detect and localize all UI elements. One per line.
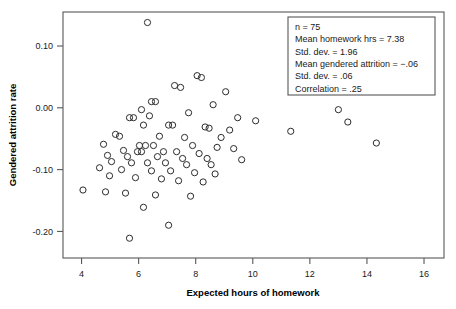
x-tick-label: 4 bbox=[79, 269, 84, 279]
stats-line: Std. dev. = .06 bbox=[295, 71, 353, 81]
x-tick-label: 10 bbox=[248, 269, 258, 279]
stats-line: Correlation = .25 bbox=[295, 84, 362, 94]
stats-line: Mean homework hrs = 7.38 bbox=[295, 34, 404, 44]
x-tick-label: 12 bbox=[305, 269, 315, 279]
x-axis-title: Expected hours of homework bbox=[186, 287, 320, 298]
y-tick-label: 0.00 bbox=[35, 103, 53, 113]
y-tick-label: -0.10 bbox=[32, 165, 53, 175]
y-tick-label: -0.20 bbox=[32, 227, 53, 237]
y-tick-label: 0.10 bbox=[35, 41, 53, 51]
x-tick-label: 8 bbox=[193, 269, 198, 279]
stats-line: Mean gendered attrition = −.06 bbox=[295, 59, 418, 69]
x-tick-label: 6 bbox=[136, 269, 141, 279]
stats-line: n = 75 bbox=[295, 22, 320, 32]
stats-line: Std. dev. = 1.96 bbox=[295, 47, 358, 57]
x-tick-label: 14 bbox=[362, 269, 372, 279]
x-tick-label: 16 bbox=[419, 269, 429, 279]
scatter-chart: 46810121416 0.100.00-0.10-0.20 Expected … bbox=[0, 0, 456, 309]
y-axis-title: Gendered attrition rate bbox=[7, 84, 18, 186]
